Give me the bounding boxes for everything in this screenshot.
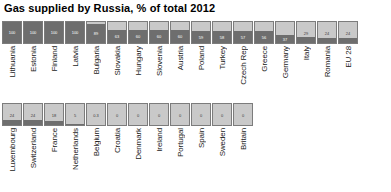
chart-bar-cell: 24EU 28 — [338, 21, 358, 68]
bar-box: 0 — [170, 103, 190, 126]
bar-value-label: 24 — [24, 113, 42, 118]
bar-category-label: Finland — [50, 46, 59, 72]
bar-value-label: 0 — [192, 113, 210, 118]
bar-box: 100 — [44, 21, 64, 44]
bar-box: 60 — [170, 21, 190, 44]
chart-bar-cell: 60Slovenia — [149, 21, 169, 76]
bar-value-label: 59 — [192, 35, 210, 40]
bar-value-label: 58 — [213, 35, 231, 40]
chart-bar-cell: 24Luxembourg — [2, 103, 22, 171]
chart-bar-cell: 18France — [44, 103, 64, 152]
bar-box: 60 — [128, 21, 148, 44]
bar-box: 56 — [254, 21, 274, 44]
bar-category-label: Lithuania — [8, 46, 17, 78]
bar-box: 0 — [128, 103, 148, 126]
bar-value-label: 60 — [171, 34, 189, 39]
bar-value-label: 24 — [318, 31, 336, 36]
bar-category-label: Bulgaria — [92, 46, 101, 75]
chart-bar-cell: 24Switzerland — [23, 103, 43, 168]
bar-category-label: Austria — [176, 46, 185, 70]
bar-value-label: 0 — [213, 113, 231, 118]
bar-category-label: Estonia — [29, 46, 38, 72]
bar-box: 63 — [107, 21, 127, 44]
bar-category-label: Hungary — [134, 46, 143, 76]
bar-box: 5 — [65, 103, 85, 126]
chart-bar-cell: 0.3Belgium — [86, 103, 106, 156]
chart-bar-cell: 57Czech Rep — [233, 21, 253, 85]
bar-category-label: Latvia — [71, 46, 80, 67]
bar-category-label: Netherlands — [71, 128, 80, 170]
bar-value-label: 63 — [108, 34, 126, 39]
bar-value-label: 24 — [339, 31, 357, 36]
bar-value-label: 100 — [45, 30, 63, 35]
bar-value-label: 0 — [234, 113, 252, 118]
bar-category-label: Italy — [302, 46, 311, 60]
bar-fill — [66, 124, 84, 125]
bar-box: 24 — [317, 21, 337, 44]
bar-value-label: 57 — [234, 35, 252, 40]
bar-fill — [318, 38, 336, 43]
bar-category-label: Luxembourg — [8, 128, 17, 171]
bar-category-label: Spain — [197, 128, 206, 148]
bar-category-label: Portugal — [176, 128, 185, 157]
bar-category-label: Croatia — [113, 128, 122, 153]
bar-value-label: 18 — [45, 113, 63, 118]
bar-fill — [3, 120, 21, 125]
bar-value-label: 60 — [150, 34, 168, 39]
bar-category-label: Romania — [323, 46, 332, 77]
bar-category-label: Sweden — [218, 128, 227, 156]
bar-fill — [297, 37, 315, 43]
bar-box: 0 — [107, 103, 127, 126]
bar-value-label: 100 — [66, 30, 84, 35]
bar-value-label: 89 — [87, 31, 105, 36]
bar-box: 0 — [233, 103, 253, 126]
bar-category-label: Britain — [239, 128, 248, 150]
bar-value-label: 0 — [108, 113, 126, 118]
bar-category-label: Slovakia — [113, 46, 122, 75]
bar-box: 100 — [65, 21, 85, 44]
chart-bar-cell: 100Lithuania — [2, 21, 22, 78]
chart-bar-cell: 60Austria — [170, 21, 190, 70]
chart-bar-cell: 56Greece — [254, 21, 274, 72]
bar-value-label: 37 — [276, 37, 294, 42]
bar-value-label: 0 — [171, 113, 189, 118]
bar-box: 0 — [149, 103, 169, 126]
bar-box: 60 — [149, 21, 169, 44]
bar-category-label: Denmark — [134, 128, 143, 160]
bar-box: 89 — [86, 21, 106, 44]
bar-category-label: Greece — [260, 46, 269, 72]
bar-fill — [339, 38, 357, 43]
bar-value-label: 0 — [150, 113, 168, 118]
chart-bar-cell: 100Estonia — [23, 21, 43, 72]
chart-bar-cell: 100Latvia — [65, 21, 85, 67]
bar-box: 37 — [275, 21, 295, 44]
bar-fill — [24, 120, 42, 125]
bar-value-label: 29 — [297, 31, 315, 36]
bar-category-label: Slovenia — [155, 46, 164, 76]
chart-row-1: 100Lithuania100Estonia100Finland100Latvi… — [2, 21, 359, 85]
bar-box: 59 — [191, 21, 211, 44]
bar-box: 18 — [44, 103, 64, 126]
bar-box: 57 — [233, 21, 253, 44]
chart-bar-cell: 5Netherlands — [65, 103, 85, 170]
bar-box: 0.3 — [86, 103, 106, 126]
bar-category-label: Czech Rep — [239, 46, 248, 85]
bar-value-label: 24 — [3, 113, 21, 118]
bar-box: 0 — [191, 103, 211, 126]
chart-bar-cell: 0Sweden — [212, 103, 232, 156]
chart-bar-cell: 0Denmark — [128, 103, 148, 160]
bar-box: 58 — [212, 21, 232, 44]
bar-box: 24 — [338, 21, 358, 44]
bar-box: 24 — [23, 103, 43, 126]
chart-bar-cell: 29Italy — [296, 21, 316, 60]
bar-value-label: 56 — [255, 35, 273, 40]
chart-bar-cell: 59Poland — [191, 21, 211, 70]
chart-bar-cell: 0Portugal — [170, 103, 190, 157]
chart-title: Gas supplied by Russia, % of total 2012 — [4, 2, 215, 14]
chart-bar-cell: 100Finland — [44, 21, 64, 72]
bar-value-label: 0 — [129, 113, 147, 118]
bar-box: 29 — [296, 21, 316, 44]
bar-box: 24 — [2, 103, 22, 126]
bar-value-label: 100 — [24, 30, 42, 35]
chart-bar-cell: 89Bulgaria — [86, 21, 106, 75]
